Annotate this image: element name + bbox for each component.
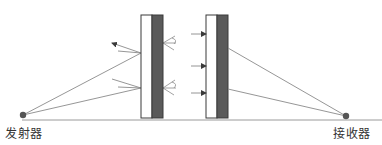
reflection-diagram [0,0,382,145]
transmitter-label: 发射器 [5,124,43,141]
right-sample [206,15,228,118]
incoming-arrows [191,34,206,93]
left-sample [141,15,163,118]
left-sample-dark-layer [152,15,163,118]
right-sample-white-layer [206,15,217,118]
receiver-dot [343,113,349,119]
transmitted-rays [228,48,346,116]
receiver-label: 接收器 [333,124,371,141]
left-sample-white-layer [141,15,152,118]
scattered-rays [163,36,176,95]
transmitter-dot [20,112,26,118]
incident-rays [23,53,141,115]
right-sample-dark-layer [217,15,228,118]
